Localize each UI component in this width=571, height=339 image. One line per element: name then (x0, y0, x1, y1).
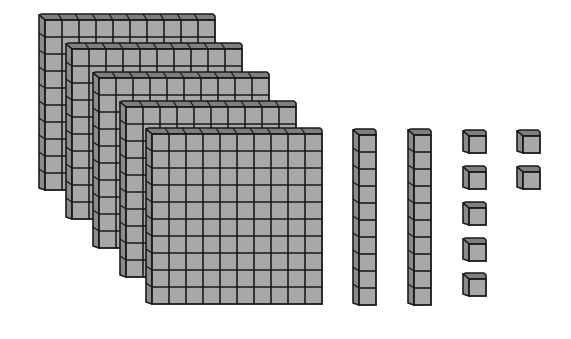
unit-cube (517, 130, 540, 153)
unit-cube (463, 238, 486, 261)
unit-cube (517, 166, 540, 189)
base-ten-blocks-diagram: Base-ten blocks 5 hundreds flats, 2 tens… (0, 0, 571, 339)
ten-rod (408, 129, 431, 305)
unit-cube (463, 130, 486, 153)
unit-cubes-group (463, 130, 540, 296)
ten-rod (353, 129, 376, 305)
unit-cube (463, 202, 486, 225)
unit-cube (463, 273, 486, 296)
blocks-canvas (0, 0, 571, 339)
hundred-flat (146, 128, 322, 304)
hundreds-flats-group (39, 14, 322, 304)
unit-cube (463, 166, 486, 189)
tens-rods-group (353, 129, 431, 305)
